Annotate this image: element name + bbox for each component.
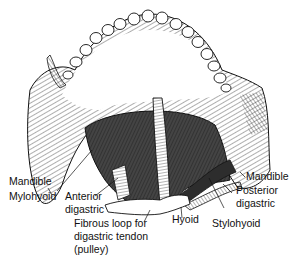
anatomy-figure: Mandible Mylohyoid Anterior digastric Fi…	[0, 0, 296, 259]
label-posterior-digastric-line2: digastric	[236, 197, 275, 209]
label-fibrous-loop-line2: digastric tendon	[74, 230, 148, 242]
label-fibrous-loop-line1: Fibrous loop for	[74, 217, 147, 229]
label-stylohyoid: Stylohyoid	[212, 217, 260, 229]
label-anterior-digastric-line2: digastric	[65, 203, 104, 215]
label-mandible-right: Mandible	[246, 170, 289, 182]
label-mandible-left: Mandible	[9, 175, 52, 187]
label-anterior-digastric-line1: Anterior	[65, 190, 102, 202]
label-hyoid: Hyoid	[172, 213, 199, 225]
label-fibrous-loop-line3: (pulley)	[74, 243, 108, 255]
label-mylohyoid: Mylohyoid	[9, 190, 56, 202]
label-posterior-digastric-line1: Posterior	[236, 184, 278, 196]
